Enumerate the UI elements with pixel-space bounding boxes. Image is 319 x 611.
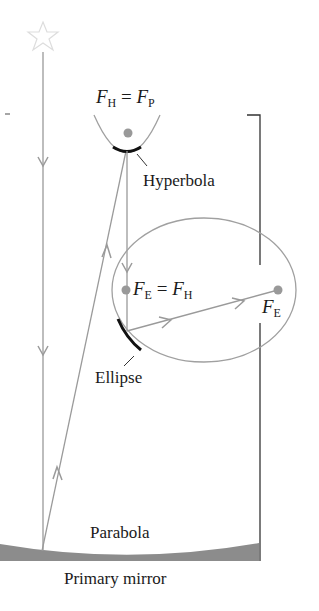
hyperbola-focus-dot (124, 129, 133, 138)
reflected-ray (42, 151, 126, 551)
ellipse-mirror (118, 319, 141, 350)
ellipse-leader (124, 356, 134, 366)
ellipse-focus-label: FE = FH (133, 278, 192, 303)
hyperbola-focus-label: FH = FP (96, 86, 155, 111)
ellipse-focus-dot-left (122, 286, 131, 295)
tube-frame-top (247, 115, 260, 265)
primary-mirror (0, 543, 259, 561)
image-focus-label: FE (262, 296, 281, 321)
ellipse-label: Ellipse (95, 368, 142, 388)
arrow-right-icon (159, 317, 171, 328)
primary-mirror-label: Primary mirror (64, 569, 166, 589)
parabola-label: Parabola (90, 523, 149, 543)
hyperbola-label: Hyperbola (143, 171, 215, 191)
hyperbola-mirror (113, 147, 141, 152)
hyperbola-leader (137, 154, 147, 166)
star-icon (28, 22, 58, 50)
